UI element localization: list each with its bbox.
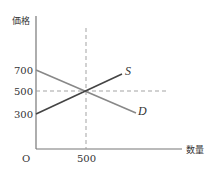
y-tick-500: 500 (14, 86, 33, 97)
supply-line (36, 74, 122, 114)
origin-label: O (22, 153, 30, 164)
supply-label: S (125, 64, 131, 78)
y-axis-label: 価格 (12, 15, 30, 26)
y-tick-300: 300 (14, 109, 33, 120)
y-tick-700: 700 (14, 65, 33, 76)
x-tick-500: 500 (77, 153, 96, 164)
supply-demand-chart: 価格 数量 700 500 300 O 500 S D (0, 0, 217, 172)
x-axis-label: 数量 (186, 144, 204, 155)
demand-label: D (137, 104, 147, 118)
